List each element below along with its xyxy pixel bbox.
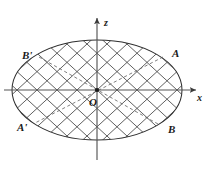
point-label-b: B <box>168 124 175 135</box>
origin-label: O <box>89 97 97 108</box>
geometry-figure: z x O A B A' B' <box>0 0 209 170</box>
z-axis-label: z <box>104 18 108 28</box>
origin-point <box>95 88 99 92</box>
x-axis-label: x <box>197 93 202 103</box>
point-label-a-prime: A' <box>17 122 27 133</box>
point-label-b-prime: B' <box>22 50 32 61</box>
point-label-a: A <box>172 48 179 59</box>
